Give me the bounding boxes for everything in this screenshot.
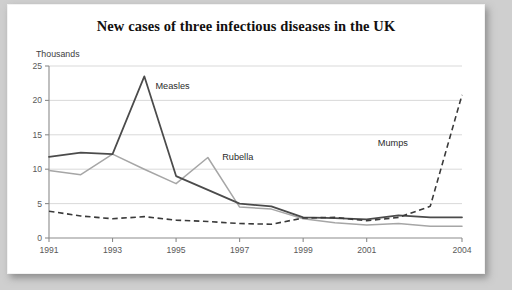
svg-text:25: 25 (32, 61, 42, 71)
figure-card: New cases of three infectious diseases i… (7, 4, 485, 274)
chart-gridlines (49, 66, 462, 204)
svg-text:2004: 2004 (452, 245, 471, 255)
series-label-measles: Measles (155, 81, 190, 91)
chart-series-labels: MeaslesRubellaMumps (155, 81, 408, 162)
svg-text:10: 10 (32, 164, 42, 174)
svg-text:2001: 2001 (357, 245, 376, 255)
chart-y-axis-ticks: 0510152025 (32, 61, 49, 243)
svg-text:1993: 1993 (103, 245, 122, 255)
line-chart: 0510152025 1991199319951997199920012004 … (7, 40, 485, 265)
chart-container: 0510152025 1991199319951997199920012004 … (7, 40, 485, 265)
series-label-mumps: Mumps (378, 138, 409, 148)
svg-text:20: 20 (32, 95, 42, 105)
svg-text:1997: 1997 (230, 245, 249, 255)
svg-text:15: 15 (32, 130, 42, 140)
page-background: New cases of three infectious diseases i… (0, 0, 512, 290)
svg-text:1995: 1995 (167, 245, 186, 255)
svg-text:0: 0 (37, 233, 42, 243)
svg-text:5: 5 (37, 199, 42, 209)
y-axis-unit-label: Thousands (36, 49, 80, 59)
svg-text:1991: 1991 (39, 245, 58, 255)
svg-text:1999: 1999 (294, 245, 313, 255)
page-title: New cases of three infectious diseases i… (7, 18, 485, 35)
chart-x-axis-ticks: 1991199319951997199920012004 (39, 238, 471, 255)
series-label-rubella: Rubella (222, 152, 254, 162)
